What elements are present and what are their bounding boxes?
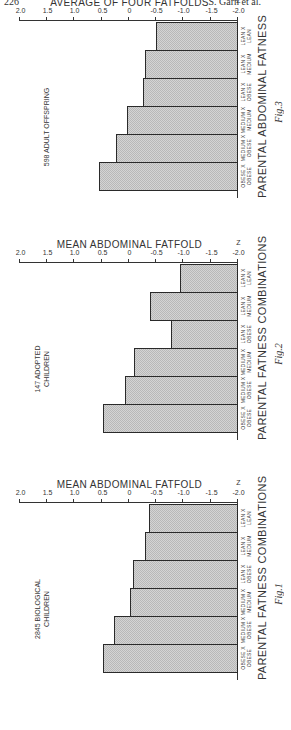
value-tick-label: 0 <box>124 489 136 496</box>
category-label: LEAN XMEDIUM <box>241 532 252 560</box>
value-tick-label: -0.5 <box>151 489 163 496</box>
value-tick <box>74 17 75 21</box>
figure-caption: Fig.2 <box>273 324 284 384</box>
value-axis-line <box>20 20 238 21</box>
bar-lean-x-medium <box>150 292 238 321</box>
annotation-line: CHILDREN <box>42 554 51 664</box>
value-tick <box>210 17 211 21</box>
value-tick-label: -1.0 <box>178 489 190 496</box>
value-tick <box>19 499 20 503</box>
value-tick-label: -2.0 <box>233 489 245 496</box>
value-tick <box>101 17 102 21</box>
category-label-line2: OBESE <box>247 376 253 404</box>
bar-lean-x-obese <box>143 78 238 107</box>
category-axis-title: PARENTAL ABDOMINAL FATNESS <box>256 18 268 198</box>
value-tick-label: -1.0 <box>178 249 190 256</box>
category-label: OBESE XOBESE <box>241 404 252 432</box>
bar-medium-x-obese <box>116 134 238 163</box>
value-tick-label: 0.5 <box>96 7 108 14</box>
bar-lean-x-lean <box>156 22 238 51</box>
category-label-line2: MEDIUM <box>247 50 253 78</box>
value-tick <box>101 259 102 263</box>
category-label: MEDIUM XMEDIUM <box>241 348 252 376</box>
value-axis-title: AVERAGE OF FOUR FATFOLDS <box>40 0 220 8</box>
category-label-line2: LEAN <box>247 22 253 50</box>
annotation-line: 2845 BIOLOGICAL <box>33 554 42 664</box>
category-label-line2: MEDIUM <box>247 348 253 376</box>
value-tick-label: 0.5 <box>96 489 108 496</box>
figure-caption: Fig.3 <box>273 82 284 142</box>
sample-annotation: 147 ADOPTEDCHILDREN <box>33 314 51 424</box>
value-tick-label: 1.5 <box>42 489 54 496</box>
category-label-line2: OBESE <box>247 134 253 162</box>
bar-obese-x-obese <box>103 644 238 673</box>
category-axis-title: PARENTAL FATNESS COMBINATIONS <box>256 260 268 440</box>
z-score-mark: Z <box>236 239 240 246</box>
category-label: OBESE XOBESE <box>241 644 252 672</box>
bar-lean-x-obese <box>171 320 238 349</box>
value-tick <box>19 259 20 263</box>
value-tick <box>183 259 184 263</box>
category-axis-title: PARENTAL FATNESS COMBINATIONS <box>256 500 268 680</box>
figure-fig1: -2.0-1.5-1.0-0.500.51.01.52.0ZLEAN XLEAN… <box>0 490 291 730</box>
category-label-line2: OBESE <box>247 78 253 106</box>
category-label-line2: LEAN <box>247 264 253 292</box>
figure-caption: Fig.1 <box>273 564 284 624</box>
annotation-line: 147 ADOPTED <box>33 314 42 424</box>
chart-fig3: -2.0-1.5-1.0-0.500.51.01.52.0̅ZLEAN XLEA… <box>0 8 291 251</box>
bar-medium-x-medium <box>127 106 238 135</box>
value-tick <box>155 17 156 21</box>
value-tick <box>101 499 102 503</box>
category-label-line2: LEAN <box>247 504 253 532</box>
value-tick <box>155 259 156 263</box>
value-tick-label: 1.0 <box>69 249 81 256</box>
category-label: MEDIUM XOBESE <box>241 134 252 162</box>
category-label: LEAN XOBESE <box>241 78 252 106</box>
category-label: LEAN XMEDIUM <box>241 50 252 78</box>
category-label-line2: MEDIUM <box>247 588 253 616</box>
value-tick-label: 0 <box>124 249 136 256</box>
value-tick <box>237 17 238 21</box>
value-tick-label: 0.5 <box>96 249 108 256</box>
category-label: LEAN XOBESE <box>241 560 252 588</box>
bar-medium-x-medium <box>134 348 238 377</box>
value-tick <box>237 259 238 263</box>
bar-lean-x-medium <box>145 532 238 561</box>
value-tick-label: -1.5 <box>205 249 217 256</box>
category-label: OBESE XOBESE <box>241 162 252 190</box>
value-tick-label: -1.0 <box>178 7 190 14</box>
value-tick-label: -1.5 <box>205 489 217 496</box>
bar-medium-x-obese <box>125 376 238 405</box>
value-axis-title: MEAN ABDOMINAL FATFOLD <box>40 479 220 490</box>
category-label: LEAN XMEDIUM <box>241 292 252 320</box>
category-label-line2: MEDIUM <box>247 532 253 560</box>
bar-lean-x-medium <box>145 50 238 79</box>
value-tick-label: 1.5 <box>42 249 54 256</box>
chart-fig2: -2.0-1.5-1.0-0.500.51.01.52.0ZLEAN XLEAN… <box>0 250 291 493</box>
value-axis-line <box>20 262 238 263</box>
annotation-line: 598 ADULT OFFSPRING <box>42 72 51 182</box>
category-label-line2: OBESE <box>247 320 253 348</box>
category-label-line2: OBESE <box>247 404 253 432</box>
bar-obese-x-obese <box>99 162 238 191</box>
value-tick <box>128 259 129 263</box>
category-label: MEDIUM XOBESE <box>241 616 252 644</box>
bar-obese-x-obese <box>103 404 238 433</box>
value-axis-line <box>20 502 238 503</box>
value-tick-label: -1.5 <box>205 7 217 14</box>
value-tick <box>128 499 129 503</box>
value-tick-label: 2.0 <box>15 7 27 14</box>
category-label-line2: OBESE <box>247 644 253 672</box>
z-score-mark: Z <box>236 479 240 486</box>
value-tick <box>128 17 129 21</box>
value-tick <box>183 499 184 503</box>
value-tick-label: -2.0 <box>233 249 245 256</box>
value-tick-label: -0.5 <box>151 7 163 14</box>
value-tick-label: 2.0 <box>15 489 27 496</box>
value-tick <box>74 259 75 263</box>
sample-annotation: 598 ADULT OFFSPRING <box>42 72 51 182</box>
value-tick <box>74 499 75 503</box>
category-label: MEDIUM XMEDIUM <box>241 588 252 616</box>
category-label-line2: OBESE <box>247 560 253 588</box>
category-label-line2: OBESE <box>247 616 253 644</box>
